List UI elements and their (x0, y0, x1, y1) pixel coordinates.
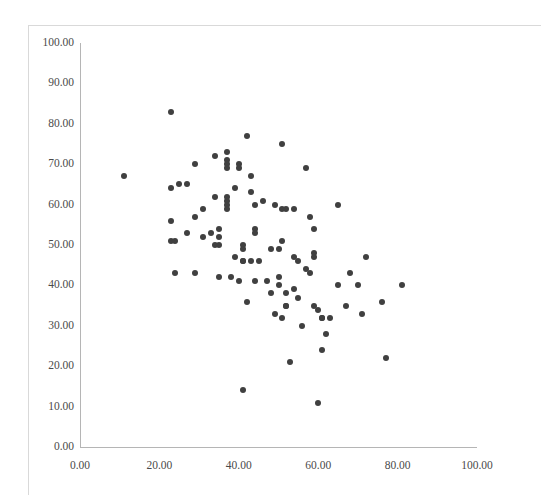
plot-area (80, 43, 477, 448)
data-point (192, 214, 198, 220)
data-point (192, 161, 198, 167)
data-point (276, 274, 282, 280)
data-point (299, 323, 305, 329)
data-point (363, 254, 369, 260)
data-point (359, 311, 365, 317)
x-axis-tick-label: 60.00 (305, 460, 331, 472)
data-point (399, 282, 405, 288)
data-point (232, 254, 238, 260)
data-point (268, 290, 274, 296)
data-point (208, 230, 214, 236)
data-point (335, 282, 341, 288)
x-axis-tick-label: 100.00 (461, 460, 493, 472)
data-point (172, 270, 178, 276)
data-point (248, 173, 254, 179)
data-point (279, 315, 285, 321)
data-point (176, 181, 182, 187)
y-axis-tick-label: 40.00 (48, 280, 74, 292)
data-point (256, 258, 262, 264)
data-point (287, 359, 293, 365)
data-point (283, 303, 289, 309)
data-point (311, 254, 317, 260)
data-point (347, 270, 353, 276)
data-point (295, 295, 301, 301)
data-point (268, 246, 274, 252)
data-point (276, 282, 282, 288)
data-point (279, 238, 285, 244)
data-point (319, 347, 325, 353)
data-point (315, 400, 321, 406)
data-point (200, 206, 206, 212)
data-point (212, 153, 218, 159)
data-point (184, 181, 190, 187)
data-point (224, 165, 230, 171)
data-point (311, 226, 317, 232)
data-point (307, 214, 313, 220)
data-point (240, 387, 246, 393)
y-axis-tick-label: 60.00 (48, 199, 74, 211)
data-point (168, 185, 174, 191)
data-point (291, 206, 297, 212)
y-axis-tick-label: 50.00 (48, 239, 74, 251)
data-point (216, 242, 222, 248)
data-point (323, 331, 329, 337)
data-point (291, 286, 297, 292)
x-axis-tick-label: 40.00 (226, 460, 252, 472)
data-point (319, 315, 325, 321)
data-point (355, 282, 361, 288)
data-point (343, 303, 349, 309)
data-point (252, 278, 258, 284)
y-axis-tick-label: 30.00 (48, 320, 74, 332)
data-point (327, 315, 333, 321)
data-point (216, 226, 222, 232)
data-point (244, 133, 250, 139)
page-frame-top-rule (28, 25, 541, 26)
data-point (272, 311, 278, 317)
data-point (283, 206, 289, 212)
y-axis-tick-label: 10.00 (48, 401, 74, 413)
y-axis-tick-label: 80.00 (48, 118, 74, 130)
data-point (168, 109, 174, 115)
data-point (228, 274, 234, 280)
data-point (236, 278, 242, 284)
data-point (172, 238, 178, 244)
data-point (224, 149, 230, 155)
y-axis-tick-label: 70.00 (48, 158, 74, 170)
data-point (168, 218, 174, 224)
data-point (260, 198, 266, 204)
data-point (240, 246, 246, 252)
data-point (276, 246, 282, 252)
y-axis-tick-label: 20.00 (48, 360, 74, 372)
data-point (200, 234, 206, 240)
data-point (307, 270, 313, 276)
x-axis-tick-label: 0.00 (70, 460, 90, 472)
data-point (248, 258, 254, 264)
data-point (184, 230, 190, 236)
data-point (192, 270, 198, 276)
data-point (272, 202, 278, 208)
data-point (252, 202, 258, 208)
data-point (240, 258, 246, 264)
data-point (224, 206, 230, 212)
page-frame-left-rule (28, 25, 29, 495)
y-axis-tick-label: 0.00 (54, 441, 74, 453)
data-point (315, 307, 321, 313)
y-axis-tick-label: 100.00 (42, 37, 74, 49)
data-point (248, 189, 254, 195)
data-point (232, 185, 238, 191)
data-point (264, 278, 270, 284)
data-point (252, 230, 258, 236)
data-point (216, 234, 222, 240)
data-point (335, 202, 341, 208)
data-point (379, 299, 385, 305)
data-point (303, 165, 309, 171)
scatter-chart: 0.0010.0020.0030.0040.0050.0060.0070.008… (0, 0, 541, 503)
y-axis-tick-label: 90.00 (48, 78, 74, 90)
data-point (121, 173, 127, 179)
data-point (383, 355, 389, 361)
data-point (279, 141, 285, 147)
x-axis-tick-label: 20.00 (146, 460, 172, 472)
data-point (212, 194, 218, 200)
data-point (244, 299, 250, 305)
x-axis-tick-label: 80.00 (385, 460, 411, 472)
